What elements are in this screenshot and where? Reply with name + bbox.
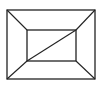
inner-diagonal: [27, 30, 76, 61]
connector-bottom-right: [76, 61, 95, 79]
connector-top-right: [76, 10, 95, 30]
connector-bottom-left: [7, 61, 27, 79]
frustum-diagram: [0, 0, 99, 89]
outer-rectangle: [7, 10, 95, 79]
connector-top-left: [7, 10, 27, 30]
